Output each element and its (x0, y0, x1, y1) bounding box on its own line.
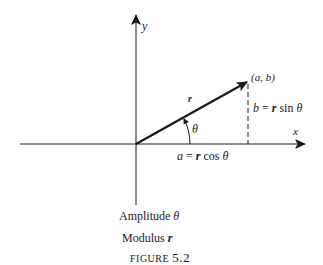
sin-function: sin (276, 101, 296, 115)
equals-sign: = (259, 101, 272, 115)
modulus-label: Modulus r (122, 232, 172, 244)
y-axis-label: y (142, 20, 147, 32)
theta-symbol: θ (222, 149, 228, 163)
angle-arc (184, 119, 190, 144)
polar-diagram (0, 0, 323, 265)
figure-caption: FIGURE 5.2 (130, 251, 190, 264)
caption-number: 5.2 (172, 250, 190, 265)
magnitude-label: r (188, 94, 192, 104)
angle-label: θ (192, 123, 198, 135)
equals-sign: = (183, 149, 196, 163)
caption-word: FIGURE (130, 253, 169, 264)
point-label: (a, b) (251, 72, 275, 83)
theta-symbol: θ (296, 101, 302, 115)
amplitude-label: Amplitude θ (119, 210, 179, 222)
vertical-component-label: b = r sin θ (253, 102, 302, 114)
x-axis-label: x (293, 126, 298, 137)
modulus-word: Modulus (122, 231, 168, 245)
cos-function: cos (200, 149, 222, 163)
r-symbol: r (168, 231, 173, 245)
theta-symbol: θ (173, 209, 179, 223)
horizontal-component-label: a = r cos θ (177, 150, 228, 162)
amplitude-word: Amplitude (119, 209, 173, 223)
